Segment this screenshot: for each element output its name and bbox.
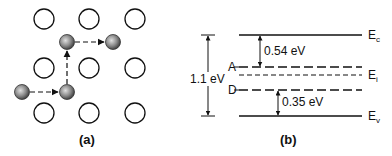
lattice-site [125, 9, 145, 29]
ev-main: E [368, 109, 376, 123]
ec-main: E [368, 28, 376, 42]
lattice-site [34, 58, 54, 78]
caption-b: (b) [280, 133, 297, 146]
ei-sub: i [376, 75, 378, 84]
acceptor-gap-label: 0.54 eV [264, 45, 305, 57]
lattice-sites [34, 9, 145, 123]
diffusing-atom [60, 35, 75, 50]
donor-gap-label: 0.35 eV [282, 96, 323, 108]
ei-main: E [368, 68, 376, 82]
lattice-site [79, 9, 99, 29]
bandgap-label: 1.1 eV [190, 73, 225, 85]
ev-sub: v [376, 116, 380, 125]
diffusing-atom [15, 85, 30, 100]
lattice-site [34, 103, 54, 123]
diffusing-atom [60, 85, 75, 100]
lattice-site [34, 9, 54, 29]
ei-label: Ei [368, 69, 378, 81]
diffusing-atom [106, 35, 121, 50]
lattice-site [79, 58, 99, 78]
caption-a: (a) [79, 133, 95, 146]
ev-label: Ev [368, 110, 380, 122]
ec-sub: c [376, 35, 380, 44]
lattice-site [125, 58, 145, 78]
acceptor-label: A [228, 61, 236, 73]
lattice-site [125, 103, 145, 123]
lattice-site [79, 103, 99, 123]
donor-label: D [228, 84, 237, 96]
ec-label: Ec [368, 29, 380, 41]
